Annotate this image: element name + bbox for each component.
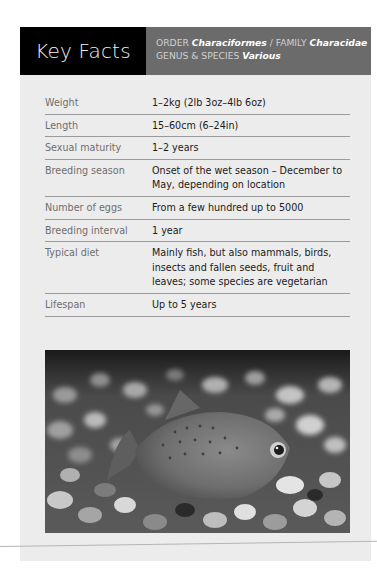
fact-value: From a few hundred up to 5000 (152, 201, 350, 216)
taxonomy-line-1: ORDER Characiformes / FAMILY Characidae (156, 36, 371, 49)
taxonomy-separator: / (270, 37, 273, 48)
piranha-image (45, 350, 350, 533)
fact-value: 1–2kg (2lb 3oz–4lb 6oz) (152, 96, 350, 111)
fact-row-breeding-season: Breeding season Onset of the wet season … (45, 160, 350, 197)
fact-label: Lifespan (45, 298, 152, 313)
fact-label: Typical diet (45, 246, 152, 290)
order-label: ORDER (156, 37, 189, 48)
fish-photo (45, 350, 350, 533)
family-label: FAMILY (276, 37, 307, 48)
fact-row-weight: Weight 1–2kg (2lb 3oz–4lb 6oz) (45, 92, 350, 115)
fact-value: Up to 5 years (152, 298, 350, 313)
fact-label: Breeding season (45, 164, 152, 193)
key-facts-header: Key Facts ORDER Characiformes / FAMILY C… (20, 27, 371, 75)
fact-row-number-of-eggs: Number of eggs From a few hundred up to … (45, 197, 350, 220)
genus-label: GENUS & SPECIES (156, 50, 239, 61)
fact-label: Length (45, 119, 152, 134)
fact-value: Onset of the wet season – December to Ma… (152, 164, 350, 193)
fact-value: Mainly fish, but also mammals, birds, in… (152, 246, 350, 290)
fact-label: Weight (45, 96, 152, 111)
fact-row-length: Length 15–60cm (6–24in) (45, 115, 350, 138)
fact-label: Number of eggs (45, 201, 152, 216)
key-facts-title: Key Facts (20, 27, 146, 75)
fact-label: Sexual maturity (45, 141, 152, 156)
genus-value: Various (242, 50, 281, 61)
fact-value: 1–2 years (152, 141, 350, 156)
fact-value: 15–60cm (6–24in) (152, 119, 350, 134)
order-value: Characiformes (192, 37, 267, 48)
fact-label: Breeding interval (45, 224, 152, 239)
fact-row-lifespan: Lifespan Up to 5 years (45, 294, 350, 317)
facts-table: Weight 1–2kg (2lb 3oz–4lb 6oz) Length 15… (45, 92, 350, 317)
fact-value: 1 year (152, 224, 350, 239)
family-value: Characidae (310, 37, 368, 48)
fact-row-typical-diet: Typical diet Mainly fish, but also mamma… (45, 242, 350, 294)
taxonomy-line-2: GENUS & SPECIES Various (156, 49, 371, 62)
taxonomy-block: ORDER Characiformes / FAMILY Characidae … (146, 27, 371, 75)
fact-row-sexual-maturity: Sexual maturity 1–2 years (45, 137, 350, 160)
fact-row-breeding-interval: Breeding interval 1 year (45, 220, 350, 243)
